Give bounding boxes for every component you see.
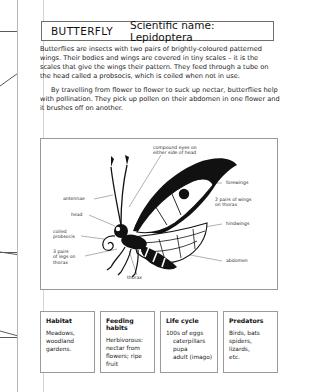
scientific-name: Scientific name: Lepidoptera <box>130 19 273 43</box>
fact-box-line: adult (imago) <box>166 353 212 361</box>
fact-box-title: Habitat <box>46 317 89 324</box>
fact-box-line: etc. <box>229 353 272 361</box>
diagram-label-thorax: thorax <box>127 275 142 280</box>
fact-box-line: Herbivorous: <box>106 336 149 344</box>
butterfly-diagram: compound eyes on either side of head ant… <box>40 138 278 290</box>
fact-box-predators: PredatorsBirds, batsspiders,lizards,etc. <box>223 311 278 373</box>
fact-box-line: caterpillars <box>166 337 212 345</box>
fact-box-title: Life cycle <box>166 317 212 324</box>
fact-box-line: 100s of eggs <box>166 329 212 337</box>
title-box: BUTTERFLY Scientific name: Lepidoptera <box>41 21 274 41</box>
fact-box-line: pupa <box>166 345 212 353</box>
fact-box-title: Feeding habits <box>106 317 149 331</box>
diagram-label-antennae: antennae <box>63 196 85 201</box>
fact-box-title: Predators <box>229 317 272 324</box>
pollination-paragraph: By travelling from flower to flower to s… <box>40 86 280 113</box>
legs-shape <box>107 247 138 277</box>
fact-box-line: woodland <box>46 337 89 345</box>
fact-box-row: HabitatMeadows,woodlandgardens.Feeding h… <box>40 311 278 373</box>
fact-box-feeding-habits: Feeding habitsHerbivorous:nectar fromflo… <box>100 311 155 373</box>
intro-paragraph: Butterflies are insects with two pairs o… <box>40 45 280 81</box>
fact-box-line: nectar from <box>106 344 149 352</box>
wing-eyespot <box>179 189 189 199</box>
diagram-label-compound-eyes: compound eyes on either side of head <box>153 145 197 156</box>
fact-box-line: flowers; ripe <box>106 352 149 360</box>
fact-box-line: Meadows, <box>46 329 89 337</box>
compound-eye <box>116 227 120 231</box>
diagram-label-legs: 3 pairs of legs on thorax <box>53 249 75 265</box>
antennae-shape <box>111 165 127 225</box>
fact-box-line: Birds, bats <box>229 329 272 337</box>
diagram-label-two-pairs-wings: 2 pairs of wings on thorax <box>215 197 251 208</box>
fact-box-line: spiders, <box>229 337 272 345</box>
diagram-label-head: head <box>71 212 82 217</box>
page-title: BUTTERFLY <box>51 25 113 37</box>
proboscis-coil <box>103 236 115 250</box>
diagram-label-proboscis: coiled probsocis <box>53 229 75 240</box>
diagram-label-forewings: forewings <box>226 180 248 185</box>
fact-box-life-cycle: Life cycle100s of eggscaterpillarspupaad… <box>160 311 218 373</box>
fact-box-habitat: HabitatMeadows,woodlandgardens. <box>40 311 95 373</box>
diagram-label-hindwings: hindwings <box>226 221 249 226</box>
fact-box-line: fruit <box>106 360 149 368</box>
diagram-label-abdomen: abdomen <box>226 258 248 263</box>
fact-box-line: gardens. <box>46 345 89 353</box>
fact-box-line: lizards, <box>229 345 272 353</box>
